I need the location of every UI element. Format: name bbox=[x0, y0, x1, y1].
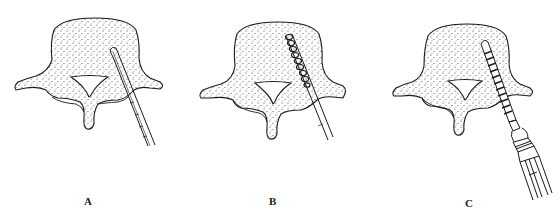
panel-c: C bbox=[370, 0, 560, 220]
vertebra-outline bbox=[15, 18, 163, 129]
vertebra-outline bbox=[200, 22, 346, 139]
vertebra-with-probe-illustration bbox=[0, 0, 185, 220]
panel-label-c: C bbox=[465, 197, 473, 209]
screwdriver-icon bbox=[509, 120, 552, 200]
panel-a: A bbox=[0, 0, 185, 220]
panel-label-a: A bbox=[84, 195, 92, 207]
figure: A bbox=[0, 0, 560, 220]
panel-label-b: B bbox=[269, 195, 276, 207]
panel-b: B bbox=[185, 0, 370, 220]
vertebra-with-tap-illustration bbox=[185, 0, 370, 220]
vertebra-with-screw-illustration bbox=[370, 0, 560, 220]
